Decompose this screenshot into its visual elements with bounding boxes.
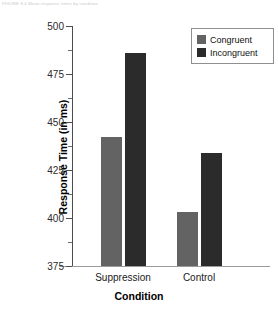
y-tick-label: 425 <box>47 165 64 176</box>
x-axis-line <box>60 266 270 267</box>
y-tick-minor <box>68 242 72 243</box>
legend-label-incongruent: Incongruent <box>210 48 258 58</box>
y-tick-major <box>66 26 72 27</box>
y-tick-major <box>66 122 72 123</box>
y-tick-label: 375 <box>47 261 64 272</box>
y-tick-minor <box>68 98 72 99</box>
legend-item-incongruent[interactable]: Incongruent <box>197 46 269 59</box>
bar-congruent-control[interactable] <box>177 212 198 266</box>
bar-incongruent-suppression[interactable] <box>125 53 146 266</box>
y-tick-major <box>66 218 72 219</box>
y-tick-label: 400 <box>47 213 64 224</box>
y-tick-label: 500 <box>47 21 64 32</box>
y-tick-label: 475 <box>47 69 64 80</box>
figure-caption: FIGURE 8.4 Mean response times by condit… <box>2 0 252 8</box>
bar-incongruent-control[interactable] <box>201 153 222 266</box>
bar-congruent-suppression[interactable] <box>101 137 122 266</box>
x-axis-title: Condition <box>0 290 278 302</box>
bar-chart-figure: FIGURE 8.4 Mean response times by condit… <box>0 0 278 314</box>
chart-legend: Congruent Incongruent <box>191 28 274 64</box>
y-tick-major <box>66 170 72 171</box>
y-tick-major <box>66 266 72 267</box>
y-tick-minor <box>68 50 72 51</box>
legend-swatch-congruent <box>197 35 206 44</box>
legend-swatch-incongruent <box>197 48 206 57</box>
x-tick-label-control: Control <box>154 272 244 283</box>
legend-item-congruent[interactable]: Congruent <box>197 33 269 46</box>
y-tick-label: 450 <box>47 117 64 128</box>
y-tick-minor <box>68 194 72 195</box>
legend-label-congruent: Congruent <box>210 35 252 45</box>
y-tick-major <box>66 74 72 75</box>
y-tick-minor <box>68 146 72 147</box>
